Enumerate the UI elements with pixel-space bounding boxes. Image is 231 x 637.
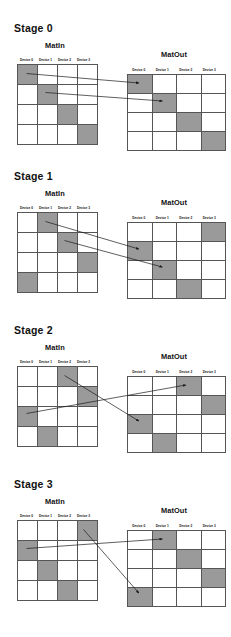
column-header-device-0: Device 0 <box>127 369 151 375</box>
cell-r0-c1-empty <box>152 223 177 242</box>
cell-r3-c2-empty <box>58 125 78 145</box>
matrix-row <box>18 521 98 541</box>
matin-matrix-table <box>17 212 98 293</box>
cell-r3-c0-shaded <box>128 588 153 607</box>
cell-r0-c1-empty <box>38 521 58 541</box>
matin-grid: Device 0Device 1Device 2Device 3 <box>17 64 93 145</box>
matrix-row <box>128 280 226 299</box>
matrix-row <box>128 550 226 569</box>
column-header-row: Device 0Device 1Device 2Device 3 <box>17 57 93 63</box>
cell-r1-c0-empty <box>128 94 153 113</box>
cell-r2-c0-empty <box>128 113 153 132</box>
column-header-device-2: Device 2 <box>55 359 74 365</box>
column-header-device-3: Device 3 <box>198 67 222 73</box>
matrix-row <box>128 531 226 550</box>
cell-r2-c0-shaded <box>18 407 38 427</box>
cell-r2-c3-empty <box>78 561 98 581</box>
column-header-row: Device 0Device 1Device 2Device 3 <box>127 369 221 375</box>
cell-r1-c3-shaded <box>201 396 226 415</box>
cell-r3-c0-empty <box>128 434 153 453</box>
matrix-row <box>128 377 226 396</box>
column-header-row: Device 0Device 1Device 2Device 3 <box>127 67 221 73</box>
cell-r2-c3-empty <box>201 415 226 434</box>
cell-r1-c3-empty <box>78 233 98 253</box>
column-header-device-1: Device 1 <box>36 205 55 211</box>
cell-r2-c1-empty <box>152 415 177 434</box>
column-header-device-2: Device 2 <box>174 215 198 221</box>
column-header-device-3: Device 3 <box>198 369 222 375</box>
cell-r2-c1-shaded <box>152 261 177 280</box>
cell-r0-c3-empty <box>78 367 98 387</box>
cell-r2-c0-empty <box>128 261 153 280</box>
matin-matrix-table <box>17 520 98 601</box>
cell-r2-c1-empty <box>152 113 177 132</box>
cell-r1-c0-empty <box>18 233 38 253</box>
matrix-row <box>18 65 98 85</box>
cell-r2-c2-empty <box>177 415 202 434</box>
matout-grid: Device 0Device 1Device 2Device 3 <box>127 74 221 151</box>
cell-r0-c2-empty <box>58 213 78 233</box>
cell-r1-c1-shaded <box>152 94 177 113</box>
cell-r2-c2-empty <box>58 253 78 273</box>
cell-r2-c1-shaded <box>38 561 58 581</box>
column-header-row: Device 0Device 1Device 2Device 3 <box>17 205 93 211</box>
matrix-row <box>128 113 226 132</box>
cell-r1-c2-empty <box>58 541 78 561</box>
cell-r3-c3-empty <box>78 273 98 293</box>
matrix-row <box>18 213 98 233</box>
cell-r1-c1-empty <box>38 387 58 407</box>
column-header-device-0: Device 0 <box>127 523 151 529</box>
matout-matrix-table <box>127 530 226 607</box>
cell-r1-c2-shaded <box>177 550 202 569</box>
cell-r2-c1-empty <box>38 253 58 273</box>
cell-r3-c2-shaded <box>58 581 78 601</box>
cell-r0-c0-empty <box>128 531 153 550</box>
cell-r3-c1-empty <box>152 132 177 151</box>
column-header-device-3: Device 3 <box>74 513 93 519</box>
matrix-row <box>128 415 226 434</box>
matrix-row <box>18 541 98 561</box>
cell-r2-c3-empty <box>78 105 98 125</box>
matrix-row <box>128 396 226 415</box>
cell-r3-c2-shaded <box>177 280 202 299</box>
cell-r3-c2-empty <box>177 132 202 151</box>
cell-r3-c0-empty <box>18 581 38 601</box>
cell-r0-c0-shaded <box>128 75 153 94</box>
column-header-row: Device 0Device 1Device 2Device 3 <box>17 513 93 519</box>
matout-matrix-table <box>127 74 226 151</box>
cell-r1-c3-empty <box>78 85 98 105</box>
cell-r3-c0-empty <box>128 132 153 151</box>
cell-r0-c2-empty <box>177 531 202 550</box>
cell-r0-c2-empty <box>177 75 202 94</box>
cell-r2-c3-empty <box>201 261 226 280</box>
cell-r1-c1-empty <box>38 541 58 561</box>
matrix-row <box>18 105 98 125</box>
cell-r1-c0-shaded <box>18 541 38 561</box>
cell-r3-c3-shaded <box>78 125 98 145</box>
cell-r2-c1-empty <box>38 105 58 125</box>
cell-r2-c3-shaded <box>201 569 226 588</box>
cell-r3-c3-empty <box>78 581 98 601</box>
matout-title: MatOut <box>147 198 201 207</box>
cell-r2-c0-empty <box>18 253 38 273</box>
cell-r0-c3-empty <box>78 65 98 85</box>
cell-r3-c0-empty <box>18 125 38 145</box>
cell-r3-c0-shaded <box>18 273 38 293</box>
cell-r1-c2-empty <box>58 85 78 105</box>
cell-r3-c2-empty <box>58 427 78 447</box>
column-header-device-3: Device 3 <box>198 523 222 529</box>
matrix-row <box>128 434 226 453</box>
cell-r0-c0-empty <box>18 367 38 387</box>
cell-r3-c3-empty <box>201 434 226 453</box>
matrix-row <box>128 75 226 94</box>
cell-r2-c3-empty <box>201 113 226 132</box>
cell-r2-c0-empty <box>18 561 38 581</box>
cell-r3-c3-empty <box>201 588 226 607</box>
cell-r0-c3-empty <box>201 75 226 94</box>
column-header-device-2: Device 2 <box>174 67 198 73</box>
matin-title: MatIn <box>30 189 80 198</box>
cell-r1-c0-shaded <box>128 242 153 261</box>
cell-r1-c2-empty <box>58 387 78 407</box>
matrix-row <box>18 581 98 601</box>
cell-r3-c3-shaded <box>201 132 226 151</box>
